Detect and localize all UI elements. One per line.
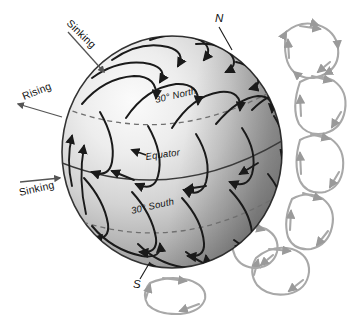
annotation-sinking-north: Sinking: [65, 17, 104, 72]
convection-cell: [285, 24, 338, 79]
convection-cell: [295, 76, 345, 134]
convection-cell: [297, 134, 344, 193]
annotation-rising-arrow: [18, 104, 62, 117]
convection-cell: [145, 278, 205, 314]
north-pole-leader-line: [219, 27, 232, 50]
annotation-rising: Rising: [18, 79, 62, 117]
label-south-pole: S: [133, 278, 141, 290]
annotation-rising-label: Rising: [20, 79, 53, 102]
label-north-pole: N: [215, 12, 224, 24]
convection-cell: [252, 248, 309, 295]
annotation-sinking-south: Sinking: [18, 178, 60, 198]
convection-cell: [286, 193, 333, 249]
diagram-canvas: 30° North Equator 30° South N S Sinking …: [0, 0, 350, 315]
circulation-diagram: 30° North Equator 30° South N S Sinking …: [0, 0, 350, 315]
